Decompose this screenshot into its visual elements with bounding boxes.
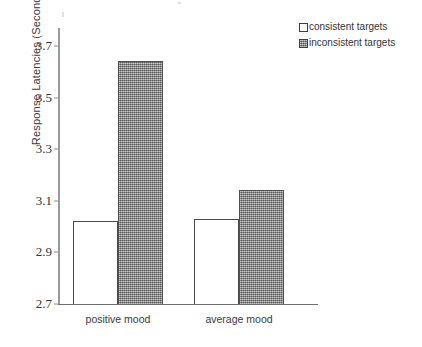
bar-positive-mood-consistent-targets (73, 221, 118, 304)
scan-artifact (62, 12, 64, 17)
bar-average-mood-inconsistent-targets (239, 190, 284, 304)
y-axis-line (58, 28, 60, 305)
x-axis-line (58, 304, 318, 305)
y-tick-label: 3.7 (12, 38, 58, 54)
y-tick-label: 3.1 (12, 193, 58, 209)
y-tick-label: 3.5 (12, 90, 58, 106)
legend-item-inconsistent: inconsistent targets (299, 38, 395, 48)
legend-swatch-white-square-icon (299, 23, 308, 32)
y-tick-label: 3.3 (12, 141, 58, 157)
x-category-label-0: positive mood (86, 313, 151, 325)
bar-positive-mood-inconsistent-targets (118, 61, 163, 304)
legend-label-inconsistent: inconsistent targets (309, 38, 395, 48)
y-tick-label: 2.9 (12, 244, 58, 260)
bar-average-mood-consistent-targets (194, 219, 239, 304)
legend-item-consistent: consistent targets (299, 22, 395, 32)
x-category-label-1: average mood (205, 313, 272, 325)
scan-artifact (178, 2, 181, 4)
bar-chart-figure: Response Latencies (Seconds) 2.72.93.13.… (0, 0, 422, 347)
legend-swatch-hatched-square-icon (299, 39, 308, 48)
legend: consistent targets inconsistent targets (299, 22, 395, 54)
y-tick-label: 2.7 (12, 296, 58, 312)
legend-label-consistent: consistent targets (309, 22, 387, 32)
